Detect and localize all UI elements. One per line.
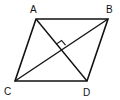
label-c: C [4, 86, 11, 97]
label-b: B [106, 4, 113, 15]
label-d: D [83, 87, 90, 98]
rhombus-diagram: A B C D [0, 0, 120, 100]
label-a: A [30, 4, 37, 15]
diagonal-cb [15, 19, 108, 81]
